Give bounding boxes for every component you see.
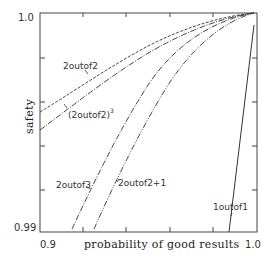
label-2outof2-plus-1: 2outof2+1 xyxy=(118,178,166,188)
y-min-label: 0.99 xyxy=(14,222,36,233)
label-2outof3: 2outof3 xyxy=(56,180,91,190)
series-1outof1 xyxy=(229,25,254,232)
label-2outof2-cubed: (2outof2)3 xyxy=(68,107,114,120)
label-2outof2: 2outof2 xyxy=(63,61,98,71)
x-axis-title: probability of good results xyxy=(84,238,239,251)
y-axis-title: safety xyxy=(23,98,36,134)
label-1outof1: 1outof1 xyxy=(213,202,248,212)
series-2outof2-plus-1 xyxy=(94,13,254,229)
reliability-chart: 2outof2 (2outof2)3 2outof3 2outof2+1 1ou… xyxy=(0,0,272,264)
y-max-label: 1.0 xyxy=(18,12,34,23)
label-leaders xyxy=(64,70,232,216)
x-max-label: 1.0 xyxy=(245,239,261,250)
x-min-label: 0.9 xyxy=(40,239,56,250)
series-2outof3 xyxy=(72,13,254,229)
